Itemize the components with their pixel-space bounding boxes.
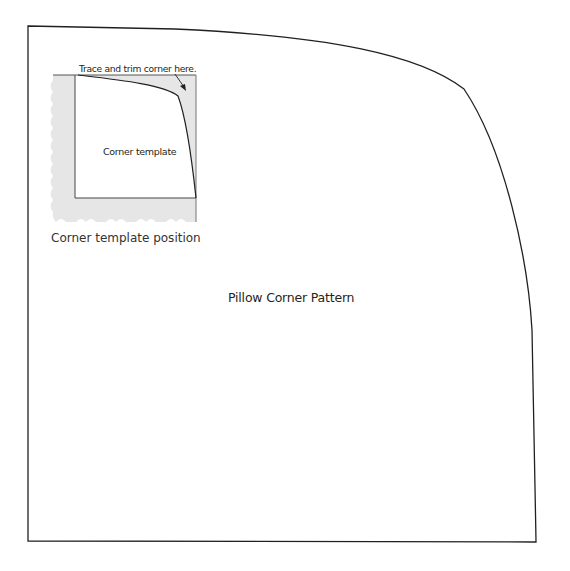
pattern-diagram <box>0 0 570 571</box>
corner-template-label: Corner template <box>103 146 176 157</box>
template-position-caption: Corner template position <box>51 231 201 245</box>
pattern-title: Pillow Corner Pattern <box>228 290 354 305</box>
trace-trim-instruction: Trace and trim corner here. <box>79 63 196 74</box>
